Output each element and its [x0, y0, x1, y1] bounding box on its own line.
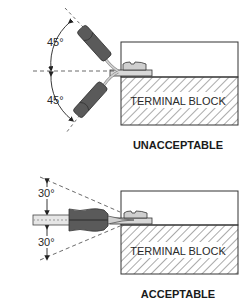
acceptable-panel: TERMINAL BLOCK 30° 30° ACCEPTABLE [33, 177, 238, 300]
angle-label-bottom: 45° [47, 94, 64, 106]
angle-label-top: 45° [47, 36, 64, 48]
unacceptable-panel: TERMINAL BLOCK 45° 45° [33, 8, 238, 151]
probe-angle-diagram: TERMINAL BLOCK 45° 45° [0, 0, 243, 304]
screw-icon [124, 211, 147, 218]
angle-label-bottom: 30° [38, 236, 55, 248]
screw-icon [123, 62, 146, 70]
angle-label-top: 30° [38, 187, 55, 199]
terminal-block: TERMINAL BLOCK [121, 191, 238, 274]
terminal-block-label: TERMINAL BLOCK [130, 95, 226, 107]
terminal-block-label: TERMINAL BLOCK [130, 245, 226, 257]
caption-acceptable: ACCEPTABLE [141, 288, 215, 300]
guide-line-bottom [66, 115, 80, 133]
terminal-block: TERMINAL BLOCK [121, 42, 238, 125]
probe-icon-straight [33, 209, 134, 232]
probe-icon-upper [76, 24, 118, 71]
probe-icon-lower [72, 72, 118, 119]
caption-unacceptable: UNACCEPTABLE [133, 139, 223, 151]
